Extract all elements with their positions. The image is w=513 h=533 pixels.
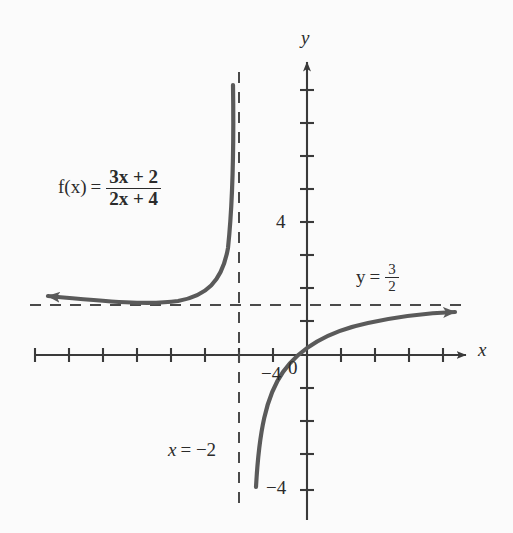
function-numerator: 3x + 2 — [106, 167, 161, 188]
graph-plot — [0, 0, 513, 533]
x-axis — [35, 348, 466, 362]
horizontal-asymptote-numerator: 3 — [385, 261, 399, 277]
horizontal-asymptote-variable: y — [356, 266, 366, 287]
x-tick-label-neg4: −4 — [261, 364, 281, 383]
horizontal-asymptote-label: y=32 — [356, 262, 400, 295]
function-expression-label: f(x)=3x + 22x + 4 — [58, 168, 162, 210]
y-axis-label: y — [301, 28, 309, 47]
vertical-asymptote-label: x= −2 — [168, 440, 220, 459]
origin-label: 0 — [288, 358, 298, 377]
horizontal-asymptote-denominator: 2 — [385, 277, 399, 294]
y-tick-label-neg4: −4 — [266, 478, 286, 497]
x-axis-label: x — [478, 340, 486, 359]
vertical-asymptote-value: = −2 — [176, 439, 220, 460]
function-fraction: 3x + 22x + 4 — [106, 167, 161, 209]
function-equals: = — [86, 176, 105, 197]
figure-canvas: y x −4 4 −4 0 x= −2 y=32 f(x)=3x + 22x +… — [0, 0, 513, 533]
y-tick-label-4: 4 — [276, 212, 286, 231]
function-name: f(x) — [58, 176, 86, 197]
function-denominator: 2x + 4 — [106, 188, 161, 210]
curve-right-branch — [256, 312, 455, 487]
y-axis — [300, 62, 314, 520]
horizontal-asymptote-fraction: 32 — [385, 261, 399, 294]
horizontal-asymptote-equals: = — [366, 266, 385, 287]
